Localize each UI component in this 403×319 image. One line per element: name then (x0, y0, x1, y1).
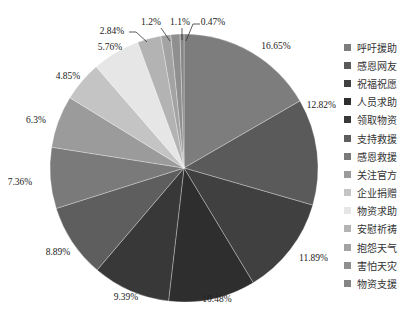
legend-item: 祝福祝愿 (344, 74, 397, 92)
legend-label: 关注官方 (357, 167, 397, 182)
legend-item: 害怕天灾 (344, 256, 397, 274)
legend-item: 企业捐赠 (344, 184, 397, 202)
slice-percent-label: 0.47% (201, 17, 226, 27)
legend-item: 感恩救援 (344, 147, 397, 165)
legend-label: 感恩网友 (357, 58, 397, 73)
legend-swatch (344, 44, 351, 51)
legend-label: 人员求助 (357, 94, 397, 109)
legend-swatch (344, 153, 351, 160)
legend-swatch (344, 80, 351, 87)
slice-percent-label: 8.89% (46, 247, 71, 257)
legend-swatch (344, 62, 351, 69)
pie-chart: 16.65%12.82%11.89%10.48%9.39%8.89%7.36%6… (0, 0, 403, 319)
legend-swatch (344, 135, 351, 142)
legend-swatch (344, 262, 351, 269)
slice-percent-label: 7.36% (8, 177, 33, 187)
slice-percent-label: 6.3% (26, 115, 46, 125)
legend-item: 人员求助 (344, 93, 397, 111)
slice-percent-label: 9.39% (114, 292, 139, 302)
legend-swatch (344, 116, 351, 123)
legend-swatch (344, 171, 351, 178)
legend-item: 安慰祈祷 (344, 220, 397, 238)
legend-item: 呼吁援助 (344, 38, 397, 56)
legend-item: 支持救援 (344, 129, 397, 147)
legend-item: 感恩网友 (344, 56, 397, 74)
legend-swatch (344, 98, 351, 105)
legend-label: 安慰祈祷 (357, 221, 397, 236)
slice-percent-label: 12.82% (307, 100, 336, 110)
slice-percent-label: 11.89% (299, 253, 328, 263)
legend-label: 物资求助 (357, 203, 397, 218)
legend-swatch (344, 280, 351, 287)
slice-percent-label: 1.1% (170, 17, 190, 27)
legend-swatch (344, 207, 351, 214)
legend-label: 感恩救援 (357, 149, 397, 164)
legend-label: 害怕天灾 (357, 258, 397, 273)
slice-percent-label: 16.65% (261, 41, 290, 51)
slice-percent-label: 2.84% (100, 26, 125, 36)
legend-swatch (344, 189, 351, 196)
legend-item: 物资求助 (344, 202, 397, 220)
slice-percent-label: 4.85% (56, 71, 81, 81)
legend-item: 领取物资 (344, 111, 397, 129)
legend-swatch (344, 244, 351, 251)
legend-swatch (344, 225, 351, 232)
legend-item: 关注官方 (344, 165, 397, 183)
legend-item: 物资支援 (344, 274, 397, 292)
slice-percent-label: 5.76% (98, 42, 123, 52)
legend-label: 支持救援 (357, 131, 397, 146)
legend-item: 抱怨天气 (344, 238, 397, 256)
legend-label: 祝福祝愿 (357, 76, 397, 91)
legend-label: 抱怨天气 (357, 240, 397, 255)
legend-label: 物资支援 (357, 276, 397, 291)
pie-slices (50, 34, 318, 302)
legend-label: 呼吁援助 (357, 40, 397, 55)
legend-label: 企业捐赠 (357, 185, 397, 200)
slice-percent-label: 10.48% (202, 294, 231, 304)
chart-legend: 呼吁援助感恩网友祝福祝愿人员求助领取物资支持救援感恩救援关注官方企业捐赠物资求助… (344, 38, 397, 293)
slice-percent-label: 1.2% (141, 17, 161, 27)
legend-label: 领取物资 (357, 112, 397, 127)
